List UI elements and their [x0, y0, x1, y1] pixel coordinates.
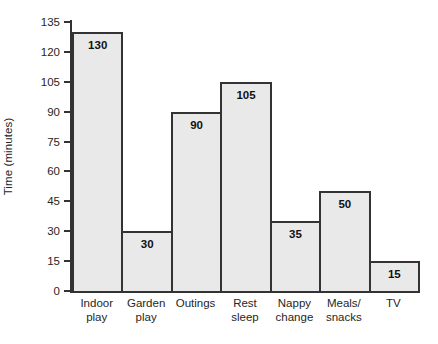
y-axis-tick-label: 75 [20, 136, 60, 148]
y-axis-title: Time (minutes) [0, 22, 16, 291]
y-axis-tick [64, 141, 72, 143]
y-axis-tick-label: 120 [20, 46, 60, 58]
bar-value-label: 105 [222, 89, 269, 102]
bar: 35 [270, 221, 321, 293]
category-label-line: play [117, 311, 174, 325]
y-axis-tick [64, 81, 72, 83]
bar-value-label: 15 [371, 268, 418, 281]
bar-value-label: 90 [173, 119, 220, 132]
bar-value-label: 35 [272, 228, 319, 241]
category-label-line: TV [365, 297, 422, 311]
y-axis-tick-label: 90 [20, 106, 60, 118]
category-label-line: snacks [315, 311, 372, 325]
y-axis-tick-label: 105 [20, 76, 60, 88]
y-axis-tick [64, 21, 72, 23]
bar: 30 [121, 231, 172, 293]
y-axis-tick [64, 290, 72, 292]
y-axis-tick-label: 0 [20, 285, 60, 297]
bar-value-label: 50 [321, 198, 368, 211]
bar-value-label: 130 [74, 39, 121, 52]
y-axis-tick-label: 15 [20, 255, 60, 267]
bar: 105 [220, 82, 271, 293]
bar: 50 [319, 191, 370, 293]
y-axis-tick-label: 30 [20, 225, 60, 237]
y-axis-tick [64, 51, 72, 53]
y-axis-tick-label: 45 [20, 195, 60, 207]
y-axis-tick-label: 60 [20, 165, 60, 177]
bar: 90 [171, 112, 222, 293]
bar: 130 [72, 32, 123, 293]
bar-value-label: 30 [123, 238, 170, 251]
y-axis-tick [64, 200, 72, 202]
x-axis-category-label: TV [365, 297, 422, 311]
bar-chart: Time (minutes) 0153045607590105120135 13… [0, 0, 438, 344]
y-axis-tick [64, 260, 72, 262]
y-axis-tick-label: 135 [20, 16, 60, 28]
y-axis-tick [64, 170, 72, 172]
bar: 15 [369, 261, 420, 293]
y-axis-tick [64, 111, 72, 113]
y-axis-tick [64, 230, 72, 232]
